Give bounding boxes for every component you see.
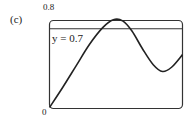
plot-area: [0, 0, 188, 119]
reference-line-label: y = 0.7: [52, 33, 83, 44]
